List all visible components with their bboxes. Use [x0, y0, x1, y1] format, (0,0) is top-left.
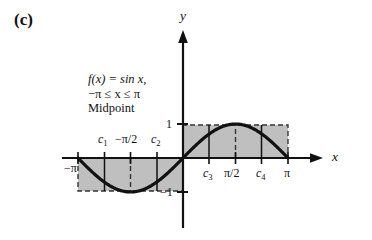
x-tick-label-c1: c1: [98, 132, 108, 148]
panel-label: (c): [14, 10, 33, 30]
x-tick-label-neg-pi: −π: [64, 161, 77, 176]
x-tick-label-c2: c2: [151, 132, 161, 148]
x-axis-arrow-icon: [310, 153, 323, 163]
x-tick-label-pi: π: [284, 166, 290, 181]
caption-line-domain: −π ≤ x ≤ π: [88, 87, 146, 102]
y-axis-label: y: [180, 8, 186, 24]
x-tick-label-c3: c3: [203, 166, 213, 182]
y-axis-arrow-icon: [178, 30, 188, 43]
caption-line-method: Midpoint: [88, 101, 146, 116]
midpoint-rule-figure: [0, 0, 372, 240]
x-axis-label: x: [332, 149, 338, 165]
x-tick-label-pi-half: π/2: [224, 166, 239, 181]
y-tick-label-negative-one: −1: [160, 185, 173, 200]
caption-line-function: f(x) = sin x,: [88, 72, 146, 87]
x-tick-label-neg-pi-half: −π/2: [115, 132, 137, 147]
figure-caption: f(x) = sin x, −π ≤ x ≤ π Midpoint: [88, 72, 146, 116]
y-tick-label-positive-one: 1: [166, 117, 172, 132]
x-tick-label-c4: c4: [256, 166, 266, 182]
